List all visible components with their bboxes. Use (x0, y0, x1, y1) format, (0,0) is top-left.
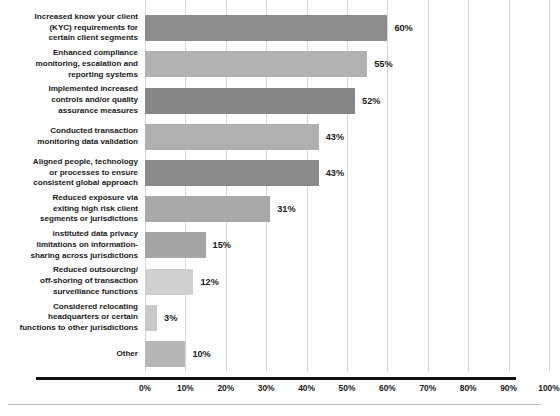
bar-track: 43% (145, 119, 549, 155)
bar[interactable] (145, 124, 319, 150)
bar[interactable] (145, 160, 319, 186)
bar-value-label: 10% (192, 349, 210, 359)
bar-row: Aligned people, technology or processes … (0, 155, 549, 191)
x-tick-label: 20% (217, 383, 234, 393)
bar-track: 43% (145, 155, 549, 191)
x-tick-label: 0% (139, 383, 151, 393)
bar-value-label: 3% (164, 313, 177, 323)
category-label: Increased know your client (KYC) require… (0, 12, 145, 44)
bar-value-label: 43% (326, 132, 344, 142)
bar-row: Other10% (0, 336, 549, 372)
bar-value-label: 43% (326, 168, 344, 178)
footer-divider (8, 404, 541, 405)
bar-track: 60% (145, 10, 549, 46)
category-label: Enhanced compliance monitoring, escalati… (0, 48, 145, 80)
category-label: instituted data privacy limitations on i… (0, 229, 145, 261)
x-tick-label: 10% (177, 383, 194, 393)
bar-track: 10% (145, 336, 549, 372)
gridline-100% (549, 0, 550, 372)
bar-value-label: 31% (277, 204, 295, 214)
bar-value-label: 60% (394, 23, 412, 33)
x-axis-rule (36, 377, 516, 380)
bar-row: Implemented increased controls and/or qu… (0, 82, 549, 118)
bar[interactable] (145, 88, 355, 114)
bar[interactable] (145, 196, 270, 222)
bar[interactable] (145, 51, 367, 77)
x-tick-label: 30% (258, 383, 275, 393)
category-label: Aligned people, technology or processes … (0, 157, 145, 189)
bar-track: 31% (145, 191, 549, 227)
bar-row: Reduced exposure via exiting high risk c… (0, 191, 549, 227)
category-label: Implemented increased controls and/or qu… (0, 84, 145, 116)
x-tick-label: 40% (298, 383, 315, 393)
bar-value-label: 52% (362, 96, 380, 106)
bar[interactable] (145, 305, 157, 331)
category-label: Reduced exposure via exiting high risk c… (0, 193, 145, 225)
bar-row: instituted data privacy limitations on i… (0, 227, 549, 263)
x-tick-label: 70% (419, 383, 436, 393)
category-label: Reduced outsourcing/ off-shoring of tran… (0, 265, 145, 297)
bar-row: Increased know your client (KYC) require… (0, 10, 549, 46)
x-tick-label: 60% (379, 383, 396, 393)
bar-row: Conducted transaction monitoring data va… (0, 119, 549, 155)
bar-track: 12% (145, 263, 549, 299)
bar-track: 3% (145, 300, 549, 336)
bar[interactable] (145, 15, 387, 41)
bar[interactable] (145, 341, 185, 367)
x-tick-label: 90% (500, 383, 517, 393)
bar-value-label: 15% (213, 240, 231, 250)
bar-rows: Increased know your client (KYC) require… (0, 0, 549, 372)
bar-row: Reduced outsourcing/ off-shoring of tran… (0, 263, 549, 299)
x-tick-label: 50% (339, 383, 356, 393)
bar[interactable] (145, 269, 193, 295)
category-label: Considered relocating headquarters or ce… (0, 302, 145, 334)
category-label: Other (0, 349, 145, 360)
plot-area: Increased know your client (KYC) require… (0, 0, 549, 372)
bar[interactable] (145, 232, 206, 258)
bar-track: 55% (145, 46, 549, 82)
bar-track: 52% (145, 82, 549, 118)
bar-track: 15% (145, 227, 549, 263)
bar-row: Considered relocating headquarters or ce… (0, 300, 549, 336)
category-label: Conducted transaction monitoring data va… (0, 126, 145, 148)
x-axis-tick-labels: 0%10%20%30%40%50%60%70%80%90%100% (145, 383, 549, 399)
bar-row: Enhanced compliance monitoring, escalati… (0, 46, 549, 82)
bar-value-label: 55% (374, 59, 392, 69)
bar-value-label: 12% (200, 277, 218, 287)
x-tick-label: 100% (538, 383, 559, 393)
x-tick-label: 80% (460, 383, 477, 393)
